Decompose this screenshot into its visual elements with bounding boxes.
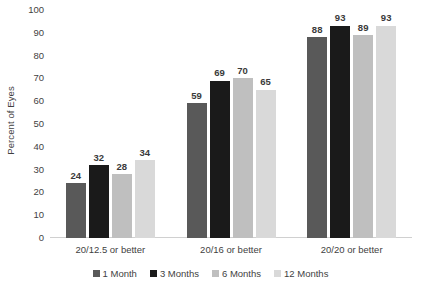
y-axis-tick: 30 [33,165,44,175]
y-axis-title-label: Percent of Eyes [5,86,16,155]
y-axis-tick: 50 [33,119,44,129]
bar-wrap: 93 [376,10,396,238]
bar-wrap: 65 [256,10,276,238]
x-axis-category-label: 20/12.5 or better [75,245,145,255]
legend-item[interactable]: 12 Months [274,269,328,279]
bar[interactable] [89,165,109,238]
chart-legend: 1 Month3 Months6 Months12 Months [0,269,421,279]
bar[interactable] [307,37,327,238]
bar-group: 88938993 [303,10,401,238]
y-axis-tick: 10 [33,210,44,220]
bar-value-label: 59 [191,91,202,101]
legend-swatch-icon [212,270,219,277]
y-axis-tick: 80 [33,51,44,61]
bar-wrap: 24 [66,10,86,238]
bar-value-label: 65 [260,77,271,87]
bar[interactable] [135,160,155,238]
bar-wrap: 28 [112,10,132,238]
bar-value-label: 93 [381,13,392,23]
bar-wrap: 88 [307,10,327,238]
y-axis-tick: 60 [33,96,44,106]
x-axis-category-label: 20/20 or better [321,245,383,255]
bar[interactable] [187,103,207,238]
bar[interactable] [376,26,396,238]
bar-value-label: 69 [214,68,225,78]
bar-value-label: 24 [71,171,82,181]
bar-value-label: 70 [237,66,248,76]
y-axis-tick: 20 [33,188,44,198]
x-axis-category-label: 20/16 or better [200,245,262,255]
legend-item[interactable]: 3 Months [150,269,199,279]
bar-value-label: 34 [140,148,151,158]
bar-wrap: 93 [330,10,350,238]
bar[interactable] [256,90,276,238]
bar-wrap: 32 [89,10,109,238]
bar[interactable] [353,35,373,238]
bar[interactable] [233,78,253,238]
bar-value-label: 89 [358,23,369,33]
legend-swatch-icon [93,270,100,277]
plot-area: 243228345969706588938993 [50,10,412,238]
bar[interactable] [330,26,350,238]
bar-chart: Percent of Eyes 1009080706050403020100 2… [0,0,421,289]
legend-item[interactable]: 6 Months [212,269,261,279]
bar-wrap: 59 [187,10,207,238]
legend-label: 1 Month [103,269,137,279]
bar[interactable] [66,183,86,238]
y-axis-tick: 0 [39,233,44,243]
bar-group: 24322834 [61,10,159,238]
y-axis-tick: 70 [33,74,44,84]
legend-swatch-icon [274,270,281,277]
y-axis-tick: 40 [33,142,44,152]
bar[interactable] [210,81,230,238]
y-axis-title: Percent of Eyes [2,0,18,240]
legend-label: 6 Months [222,269,261,279]
y-axis-tick-labels: 1009080706050403020100 [18,10,44,238]
bar[interactable] [112,174,132,238]
bar-wrap: 34 [135,10,155,238]
bar-wrap: 89 [353,10,373,238]
legend-label: 3 Months [160,269,199,279]
legend-item[interactable]: 1 Month [93,269,137,279]
bar-wrap: 69 [210,10,230,238]
x-axis-category-labels: 20/12.5 or better20/16 or better20/20 or… [50,245,412,261]
bar-wrap: 70 [233,10,253,238]
y-axis-tick: 90 [33,28,44,38]
legend-label: 12 Months [284,269,328,279]
bar-value-label: 32 [94,153,105,163]
y-axis-tick: 100 [28,5,44,15]
bar-group: 59697065 [182,10,280,238]
bar-value-label: 93 [335,13,346,23]
bar-value-label: 88 [312,25,323,35]
legend-swatch-icon [150,270,157,277]
bar-value-label: 28 [117,162,128,172]
